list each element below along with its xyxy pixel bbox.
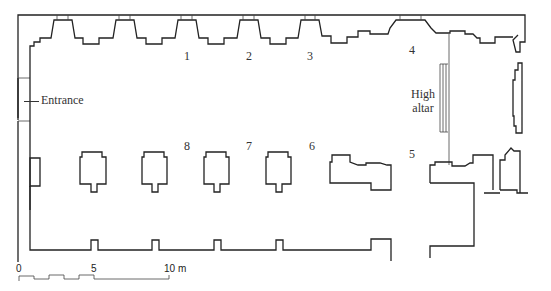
east-side-panel [513, 63, 522, 133]
altar-label-line1: High [411, 87, 435, 101]
west-respond [30, 158, 40, 186]
south-wall [30, 186, 391, 261]
scale-tick-0: 0 [16, 264, 22, 274]
bay-label-7: 7 [246, 140, 252, 152]
entrance-text: Entrance [41, 93, 84, 107]
bay-label-5: 5 [409, 148, 415, 160]
bay-label-4: 4 [409, 44, 415, 56]
pier-row [80, 148, 528, 258]
bay-label-1: 1 [184, 50, 190, 62]
bay-label-2: 2 [246, 50, 252, 62]
scale-tick-5: 5 [91, 264, 97, 274]
high-altar-label: High altar [411, 87, 435, 115]
scale-tick-10: 10 m [164, 264, 186, 274]
north-inner-wall [30, 20, 513, 210]
entrance-label: Entrance [24, 94, 84, 106]
scale-bar [19, 275, 169, 281]
bay-label-8: 8 [184, 140, 190, 152]
buttress-caps [57, 15, 421, 20]
bay-label-6: 6 [309, 140, 315, 152]
high-altar [440, 64, 448, 132]
altar-label-line2: altar [411, 101, 435, 115]
bay-label-3: 3 [307, 50, 313, 62]
floor-plan-drawing [0, 0, 551, 291]
entrance-pointer [24, 101, 39, 102]
